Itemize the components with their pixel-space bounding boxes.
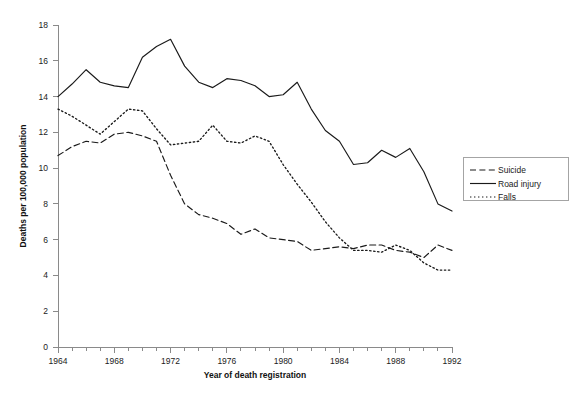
y-tick-label: 6 — [43, 235, 48, 245]
series-line-falls — [58, 109, 452, 270]
y-tick-label: 0 — [43, 342, 48, 352]
y-tick-label: 8 — [43, 199, 48, 209]
legend-label-suicide: Suicide — [498, 165, 526, 175]
series-line-suicide — [58, 132, 452, 257]
x-tick-label: 1984 — [330, 356, 349, 366]
series-line-road-injury — [58, 39, 452, 211]
x-tick-label: 1964 — [49, 356, 68, 366]
y-axis-title: Deaths per 100,000 population — [18, 125, 28, 248]
x-tick-label: 1988 — [386, 356, 405, 366]
y-tick-label: 4 — [43, 270, 48, 280]
x-tick-label: 1980 — [274, 356, 293, 366]
y-tick-label: 10 — [39, 163, 49, 173]
x-axis-title: Year of death registration — [204, 370, 307, 380]
y-tick-label: 14 — [39, 92, 49, 102]
x-tick-label: 1972 — [161, 356, 180, 366]
y-tick-label: 18 — [39, 20, 49, 30]
y-tick-label: 16 — [39, 56, 49, 66]
y-tick-label: 12 — [39, 127, 49, 137]
x-tick-label: 1976 — [217, 356, 236, 366]
line-chart-svg: 024681012141618 196419681972197619801984… — [0, 0, 576, 393]
x-tick-label: 1968 — [105, 356, 124, 366]
y-axis-ticks: 024681012141618 — [39, 20, 58, 352]
chart-figure: 024681012141618 196419681972197619801984… — [0, 0, 576, 393]
data-series-group — [58, 39, 452, 270]
chart-legend: SuicideRoad injuryFalls — [464, 158, 569, 203]
legend-label-road-injury: Road injury — [498, 179, 542, 189]
x-axis-ticks: 19641968197219761980198419881992 — [49, 347, 462, 366]
x-tick-label: 1992 — [443, 356, 462, 366]
y-tick-label: 2 — [43, 306, 48, 316]
legend-label-falls: Falls — [498, 192, 516, 202]
